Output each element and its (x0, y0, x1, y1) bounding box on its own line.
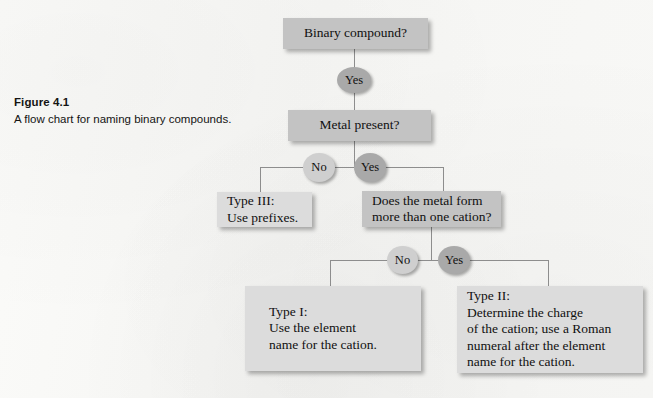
connector-cation-no-drop (330, 260, 331, 286)
figure-canvas: Figure 4.1 A flow chart for naming binar… (0, 0, 653, 398)
node-yes-cation-label: Yes (445, 253, 463, 268)
node-type-i-label: Type I: Use the element name for the cat… (269, 304, 377, 354)
node-type-iii-label: Type III: Use prefixes. (227, 193, 298, 226)
node-type-i[interactable]: Type I: Use the element name for the cat… (245, 286, 421, 371)
node-more-than-one-cation[interactable]: Does the metal form more than one cation… (362, 191, 501, 227)
figure-caption-title: Figure 4.1 (14, 95, 254, 110)
node-binary-compound[interactable]: Binary compound? (283, 18, 428, 49)
connector-cation-stem (431, 226, 432, 260)
figure-caption-text: A flow chart for naming binary compounds… (14, 112, 254, 127)
figure-caption: Figure 4.1 A flow chart for naming binar… (14, 95, 254, 127)
node-metal-present[interactable]: Metal present? (288, 110, 431, 141)
connector-binary-to-yes (354, 48, 355, 68)
node-type-iii[interactable]: Type III: Use prefixes. (217, 192, 312, 227)
node-yes-metal[interactable]: Yes (354, 153, 386, 182)
connector-yes-to-metal (354, 92, 355, 111)
node-yes-metal-label: Yes (361, 160, 379, 175)
node-type-ii[interactable]: Type II: Determine the charge of the cat… (457, 286, 643, 373)
node-no-cation-label: No (395, 253, 410, 268)
connector-metal-branch-bar (260, 167, 443, 168)
node-metal-present-label: Metal present? (320, 117, 400, 134)
connector-cation-yes-drop (548, 260, 549, 286)
node-more-than-one-cation-label: Does the metal form more than one cation… (372, 193, 492, 226)
node-no-metal[interactable]: No (303, 153, 335, 182)
node-no-metal-label: No (311, 160, 326, 175)
connector-metal-no-drop (260, 167, 261, 193)
connector-metal-yes-drop (443, 167, 444, 192)
node-yes-cation[interactable]: Yes (438, 246, 470, 274)
node-no-cation[interactable]: No (387, 246, 418, 274)
node-yes-binary-label: Yes (345, 73, 363, 88)
node-yes-binary[interactable]: Yes (337, 67, 371, 93)
node-binary-compound-label: Binary compound? (304, 25, 407, 42)
node-type-ii-label: Type II: Determine the charge of the cat… (467, 288, 611, 371)
